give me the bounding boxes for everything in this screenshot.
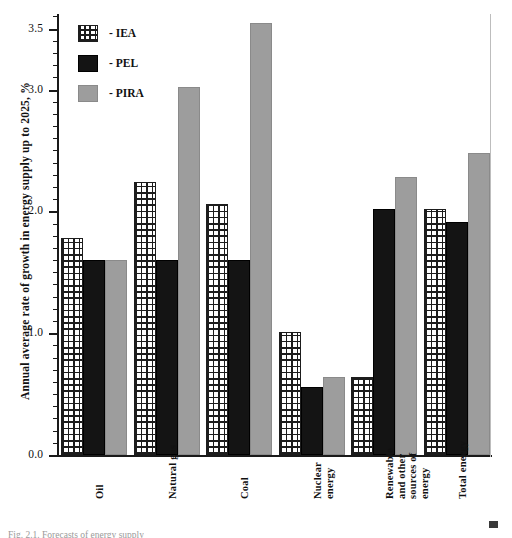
y-tick-label: 0.0: [28, 449, 43, 460]
bar-group: [424, 14, 490, 455]
bar-pira: [468, 153, 490, 455]
x-axis-label: Natural gas: [167, 419, 179, 499]
bar-group: [61, 14, 127, 455]
scan-artifact-mark: [489, 521, 498, 528]
bar-iea: [206, 204, 228, 455]
x-axis-label: Coal: [239, 419, 251, 499]
x-axis-label: Nuclear energy: [312, 419, 335, 499]
figure-caption: Fig. 2.1. Forecasts of energy supply: [8, 530, 144, 538]
bar-iea: [61, 238, 83, 455]
bar-pira: [395, 177, 417, 455]
bar-iea: [134, 182, 156, 455]
y-tick-label: 1.0: [28, 327, 43, 338]
bar-groups: [57, 14, 492, 455]
bar-group: [134, 14, 200, 455]
bar-group: [351, 14, 417, 455]
bar-chart: Annual average rate of growth in energy …: [0, 0, 512, 538]
y-tick-label: 3.5: [28, 23, 43, 34]
bar-pira: [105, 260, 127, 455]
bar-iea: [351, 377, 373, 455]
y-tick-major: [49, 455, 59, 457]
x-axis-label: Total energy: [457, 419, 469, 499]
bar-group: [206, 14, 272, 455]
bar-group: [279, 14, 345, 455]
y-tick-label: 2.0: [28, 205, 43, 216]
x-axis-label: Renewable and other sources of energy: [384, 419, 430, 499]
y-axis-title: Annual average rate of growth in energy …: [19, 41, 31, 441]
bar-pira: [250, 23, 272, 455]
bar-iea: [279, 332, 301, 455]
x-axis-labels: OilNatural gasCoalNuclear energyRenewabl…: [57, 459, 492, 537]
bar-pira: [178, 87, 200, 455]
y-tick-label: 3.0: [28, 84, 43, 95]
x-axis-label: Oil: [94, 419, 106, 499]
